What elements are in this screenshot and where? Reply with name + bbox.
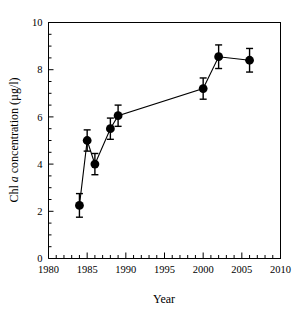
x-tick-label: 1990 [115,264,136,275]
chart-canvas: 0246810 1980198519901995200020052010 Yea… [0,0,304,316]
x-tick-label: 1995 [154,264,175,275]
y-tick-label: 4 [37,159,43,170]
error-bars [76,45,253,217]
x-axis-title: Year [153,292,175,306]
y-tick-label: 8 [37,64,42,75]
data-point [83,136,92,145]
y-tick-label: 0 [37,253,42,264]
y-tick-label: 2 [37,206,42,217]
y-tick-label: 10 [32,17,43,28]
y-axis-tick-labels: 0246810 [32,17,43,264]
data-point-markers [75,52,254,209]
data-point [75,201,84,210]
x-tick-label: 1980 [38,264,59,275]
data-point [214,52,223,61]
data-point [91,160,100,169]
x-tick-label: 2010 [270,264,291,275]
x-axis-tick-labels: 1980198519901995200020052010 [38,264,291,275]
y-axis-ticks [49,23,54,259]
series-line [79,57,249,206]
data-point [106,124,115,133]
data-point [199,84,208,93]
x-axis-ticks [49,253,281,259]
y-tick-label: 6 [37,112,42,123]
y-axis-title: Chl a concentration (µg/l) [7,77,21,202]
x-tick-label: 2000 [193,264,214,275]
data-point [114,111,123,120]
chlorophyll-a-time-series-figure: 0246810 1980198519901995200020052010 Yea… [0,0,304,316]
x-tick-label: 1985 [77,264,98,275]
data-point [245,56,254,65]
y-axis-title-pre: Chl [7,182,21,202]
y-axis-title-post: concentration (µg/l) [7,77,21,176]
x-tick-label: 2005 [231,264,252,275]
